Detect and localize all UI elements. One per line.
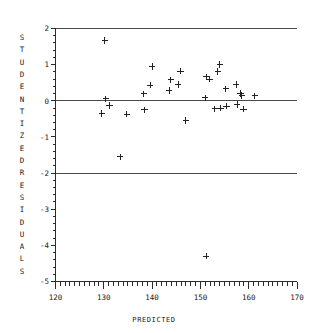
y-axis-title-letter: R (20, 168, 25, 177)
y-tick-label: 1 (44, 60, 49, 69)
y-tick-label: 0 (44, 97, 49, 106)
x-tick-label: 140 (145, 293, 159, 302)
y-tick-label: -3 (40, 205, 49, 214)
y-axis-title-letter: D (20, 156, 25, 165)
y-axis-title-letter: T (20, 45, 25, 54)
y-axis-title-letter: S (20, 193, 25, 202)
y-axis-title-letter: I (20, 119, 25, 128)
y-axis-title-letter: E (20, 82, 25, 91)
y-axis-title-letter: N (20, 95, 25, 104)
y-tick-label: -2 (40, 169, 49, 178)
x-tick-label: 150 (194, 293, 208, 302)
y-axis-title-letter: T (20, 107, 25, 116)
y-axis-title-letter: D (20, 218, 25, 227)
y-axis-title-letter: U (20, 230, 25, 239)
y-tick-label: -1 (40, 133, 49, 142)
y-axis-title-letter: E (20, 144, 25, 153)
y-axis-title-letter: U (20, 58, 25, 67)
x-tick-label: 120 (49, 293, 63, 302)
y-axis-title-letter: Z (20, 131, 25, 140)
x-tick-label: 170 (290, 293, 304, 302)
y-tick-label: -4 (40, 241, 50, 250)
y-axis-title-letter: E (20, 181, 25, 190)
y-axis-title-letter: D (20, 70, 25, 79)
y-axis-title-letter: A (20, 242, 25, 251)
y-axis-title-letter: S (20, 267, 25, 276)
studentized-residuals-chart: 210-1-2-3-4-5 120130140150160170 STUDENT… (0, 0, 309, 333)
chart-canvas: 210-1-2-3-4-5 120130140150160170 STUDENT… (0, 0, 309, 333)
x-tick-label: 160 (242, 293, 256, 302)
y-tick-label: -5 (40, 277, 49, 286)
y-tick-label: 2 (44, 24, 49, 33)
x-tick-label: 130 (97, 293, 111, 302)
x-axis-title: PREDICTED (132, 316, 175, 324)
y-axis-title-letter: L (20, 254, 25, 263)
y-axis-title-letter: I (20, 205, 25, 214)
y-axis-title-letter: S (20, 33, 25, 42)
